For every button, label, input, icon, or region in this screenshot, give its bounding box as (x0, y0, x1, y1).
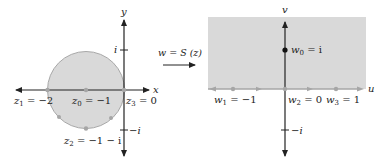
label-w3: w3 = 1 (326, 94, 360, 107)
tick-neg-i-label: −i (129, 125, 141, 136)
mapping-label: w = S (z) (158, 47, 202, 58)
x-axis-label: x (153, 84, 159, 95)
point-w1 (231, 87, 235, 91)
point-z3 (122, 88, 126, 92)
label-z2: z2 = −1 − i (63, 135, 121, 148)
label-z1: z1 = −2 (13, 95, 53, 108)
point-arc-left (57, 115, 61, 119)
point-z0 (84, 88, 88, 92)
point-z1 (45, 88, 49, 92)
tick-i-label: i (114, 44, 117, 55)
y-axis-label: y (120, 6, 127, 17)
point-z2 (84, 126, 88, 130)
point-w3 (334, 87, 338, 91)
mobius-mapping-diagram: x y i −i z1 = −2 z0 = −1 z3 = 0 z2 = −1 … (0, 0, 385, 165)
w-plane: u v −i w0 = i w1 = −1 w2 = 0 w3 = 1 (208, 4, 374, 156)
label-z3: z3 = 0 (125, 95, 157, 108)
label-w1: w1 = −1 (214, 94, 257, 107)
u-axis-label: u (368, 83, 374, 94)
upper-half-plane-region (208, 17, 366, 89)
point-w2 (283, 87, 287, 91)
label-w2: w2 = 0 (288, 94, 322, 107)
z-plane: x y i −i z1 = −2 z0 = −1 z3 = 0 z2 = −1 … (13, 6, 159, 156)
mapping: w = S (z) (158, 47, 202, 65)
point-arc-right (109, 116, 113, 120)
tick-neg-i-label: −i (291, 125, 303, 136)
point-w0 (282, 47, 287, 52)
v-axis-label: v (282, 4, 288, 15)
